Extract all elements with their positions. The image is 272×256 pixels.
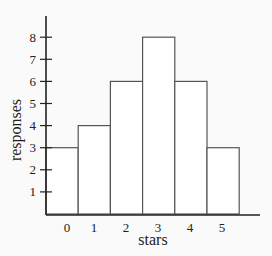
bar-1: [78, 126, 110, 214]
x-tick-label: 0: [64, 220, 71, 235]
y-tick-label: 4: [30, 118, 37, 133]
y-tick-label: 1: [30, 184, 37, 199]
bar-2: [110, 81, 142, 214]
bar-0: [46, 148, 78, 214]
bar-5: [207, 148, 239, 214]
y-tick-label: 6: [30, 74, 37, 89]
y-tick-label: 5: [30, 96, 37, 111]
x-tick-label: 2: [123, 220, 130, 235]
y-axis-label: responses: [7, 99, 25, 161]
x-axis-label: stars: [138, 231, 167, 248]
bar-3: [143, 37, 175, 214]
histogram-chart: 12345678 012345 stars responses: [0, 0, 272, 256]
bars-group: [46, 37, 239, 214]
y-tick-label: 7: [30, 52, 37, 67]
x-tick-label: 5: [219, 220, 226, 235]
bar-4: [175, 81, 207, 214]
y-tick-label: 8: [30, 30, 37, 45]
y-tick-label: 2: [30, 162, 37, 177]
y-tick-label: 3: [30, 140, 37, 155]
x-tick-label: 4: [187, 220, 194, 235]
x-tick-label: 1: [91, 220, 98, 235]
